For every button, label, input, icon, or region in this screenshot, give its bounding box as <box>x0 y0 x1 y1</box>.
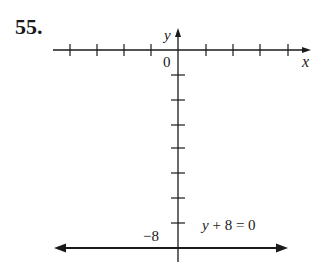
equation-label: y + 8 = 0 <box>200 217 256 233</box>
x-axis <box>53 44 311 56</box>
origin-label: 0 <box>163 54 171 70</box>
graph-line-y-equals-neg8 <box>54 244 288 253</box>
right-arrow-icon <box>276 244 288 253</box>
left-arrow-icon <box>54 244 66 253</box>
y-axis <box>171 28 185 262</box>
y-axis-arrow-icon <box>175 28 181 37</box>
coordinate-graph: y x 0 −8 y + 8 = 0 <box>0 0 322 276</box>
x-axis-label: x <box>301 53 309 70</box>
y-axis-label: y <box>162 27 171 43</box>
y-tick-label-neg8: −8 <box>143 228 159 244</box>
